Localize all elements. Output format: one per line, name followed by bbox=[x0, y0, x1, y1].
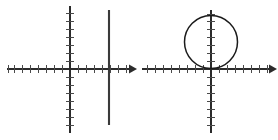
graph-panel-right bbox=[139, 0, 278, 140]
coordinate-plane-right bbox=[139, 0, 278, 140]
x-axis-arrow-right-icon bbox=[129, 65, 137, 74]
coordinate-plane-left bbox=[0, 0, 139, 140]
graph-panel-left bbox=[0, 0, 139, 140]
screenshot-root bbox=[0, 0, 278, 140]
x-axis-arrow-right-icon bbox=[269, 65, 277, 74]
